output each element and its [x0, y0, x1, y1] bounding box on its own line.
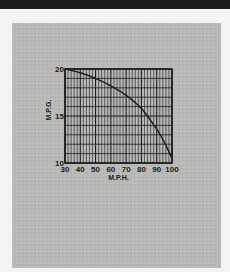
- x-axis-label: M.P.H.: [108, 174, 129, 181]
- mpg-vs-mph-chart: 30405060708090100 101520 M.P.H. M.P.G.: [0, 0, 230, 272]
- y-tick-label: 10: [55, 159, 64, 168]
- y-tick-labels: 101520: [55, 65, 64, 168]
- mpg-curve: [65, 69, 172, 158]
- x-tick-label: 70: [122, 165, 131, 174]
- x-tick-label: 90: [152, 165, 161, 174]
- chart-grid: [65, 69, 172, 163]
- x-tick-label: 60: [106, 165, 115, 174]
- y-axis-label: M.P.G.: [45, 100, 52, 121]
- x-tick-label: 100: [165, 165, 179, 174]
- x-tick-labels: 30405060708090100: [61, 165, 180, 174]
- y-tick-label: 20: [55, 65, 64, 74]
- x-tick-label: 40: [76, 165, 85, 174]
- x-tick-label: 80: [137, 165, 146, 174]
- x-tick-label: 50: [91, 165, 100, 174]
- y-tick-label: 15: [55, 112, 64, 121]
